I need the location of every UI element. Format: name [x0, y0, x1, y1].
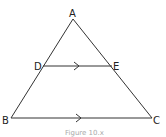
- figure-caption: Figure 10.x: [65, 129, 104, 137]
- triangle-diagram: A D E B C Figure 10.x: [0, 0, 166, 137]
- label-a: A: [69, 8, 76, 19]
- side-ab: [11, 19, 73, 118]
- label-d: D: [34, 61, 42, 72]
- label-c: C: [153, 115, 160, 126]
- label-e: E: [113, 61, 119, 72]
- label-b: B: [2, 115, 9, 126]
